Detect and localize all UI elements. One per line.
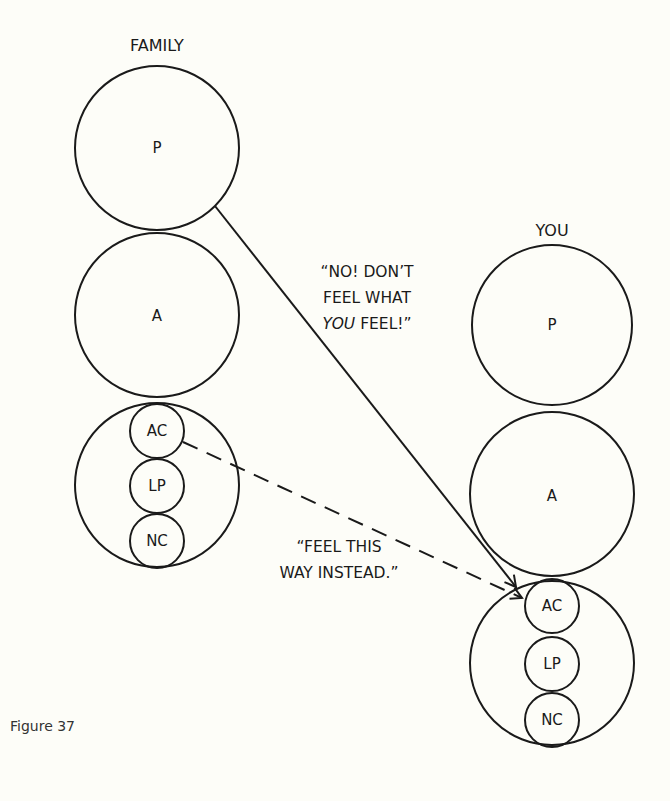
dashed-quote-line-1: “FEEL THIS [296, 538, 381, 556]
family-adapted-child-label: AC [147, 422, 167, 440]
you-parent-label: P [547, 316, 556, 334]
you-adult-label: A [547, 487, 558, 505]
solid-quote-line-3-rest: FEEL!” [355, 315, 411, 333]
figure-caption: Figure 37 [10, 718, 75, 734]
solid-quote-emphasis: YOU [322, 315, 355, 333]
solid-quote-line-3: YOU FEEL!” [322, 315, 411, 333]
you-ego-states: YOU P A AC LP NC [470, 221, 634, 747]
dashed-message-quote: “FEEL THIS WAY INSTEAD.” [279, 538, 398, 582]
family-ego-states: FAMILY P A AC LP NC [75, 36, 239, 568]
solid-message-quote: “NO! DON’T FEEL WHAT YOU FEEL!” [320, 263, 414, 333]
family-title: FAMILY [130, 36, 184, 55]
solid-quote-line-1: “NO! DON’T [320, 263, 414, 281]
family-natural-child-label: NC [146, 532, 168, 550]
solid-quote-line-2: FEEL WHAT [323, 289, 411, 307]
you-adapted-child-label: AC [542, 597, 562, 615]
you-natural-child-label: NC [541, 711, 563, 729]
dashed-quote-line-2: WAY INSTEAD.” [279, 564, 398, 582]
family-adult-label: A [152, 307, 163, 325]
family-parent-label: P [152, 139, 161, 157]
family-little-professor-label: LP [148, 477, 165, 495]
you-title: YOU [534, 221, 568, 240]
ego-state-diagram: FAMILY P A AC LP NC YOU P A AC LP NC “NO… [0, 0, 670, 801]
you-little-professor-label: LP [543, 655, 560, 673]
